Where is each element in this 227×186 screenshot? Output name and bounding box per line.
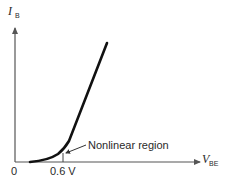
y-axis-label-sub: B: [15, 12, 20, 19]
y-axis-label: I: [7, 4, 13, 18]
origin-label: 0: [11, 165, 17, 177]
x-axis-label-sub: BE: [209, 160, 219, 167]
tick-label-0-6v: 0.6 V: [50, 165, 76, 177]
chart: I B V BE 0 0.6 V Nonlinear region: [0, 0, 227, 186]
annotation-leader: [66, 145, 86, 153]
annotation-nonlinear-region: Nonlinear region: [88, 139, 169, 151]
